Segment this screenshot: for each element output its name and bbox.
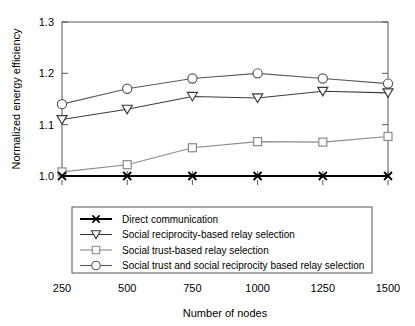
- legend-item-3[interactable]: Social trust and social reciprocity base…: [80, 260, 364, 271]
- y-axis-title: Normalized energy efficiency: [10, 28, 22, 170]
- square-marker: [319, 138, 327, 146]
- x-tick-label: 750: [183, 282, 201, 294]
- square-marker: [384, 132, 392, 140]
- circle-marker: [92, 261, 100, 269]
- plot-area-border: [62, 22, 388, 176]
- y-tick-label: 1.2: [39, 67, 54, 79]
- legend-label: Social trust-based relay selection: [122, 245, 269, 256]
- x-tick-label: 500: [118, 282, 136, 294]
- y-tick-label: 1.1: [39, 119, 54, 131]
- square-marker: [188, 144, 196, 152]
- x-tick-label: 1500: [376, 282, 400, 294]
- circle-marker: [318, 74, 327, 83]
- circle-marker: [57, 100, 66, 109]
- square-marker: [123, 161, 131, 169]
- legend-label: Direct communication: [122, 214, 218, 225]
- chart-figure: 1.01.11.21.3 250500750100012501500 Norma…: [0, 0, 415, 326]
- square-marker: [92, 246, 99, 253]
- y-tick-label: 1.3: [39, 16, 54, 28]
- legend-label: Social trust and social reciprocity base…: [122, 260, 364, 271]
- chart-legend: Direct communicationSocial reciprocity-b…: [72, 207, 372, 273]
- x-tick-label: 1250: [311, 282, 335, 294]
- x-tick-label: 1000: [245, 282, 269, 294]
- circle-marker: [188, 74, 197, 83]
- y-tick-label: 1.0: [39, 170, 54, 182]
- x-tick-label: 250: [53, 282, 71, 294]
- line-chart: 1.01.11.21.3 250500750100012501500 Norma…: [0, 0, 415, 326]
- x-axis-title: Number of nodes: [183, 307, 268, 319]
- legend-label: Social reciprocity-based relay selection: [122, 229, 295, 240]
- circle-marker: [123, 84, 132, 93]
- square-marker: [254, 138, 262, 146]
- circle-marker: [253, 69, 262, 78]
- circle-marker: [383, 79, 392, 88]
- square-marker: [58, 168, 66, 176]
